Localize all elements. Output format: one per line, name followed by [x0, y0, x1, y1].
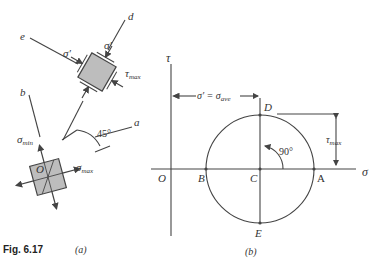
figure-caption: Fig. 6.17: [3, 244, 43, 255]
point-A-label: A: [317, 172, 325, 184]
label-e: e: [20, 30, 25, 42]
part-b-label: (b): [245, 246, 257, 258]
mohr-circle: [151, 64, 356, 236]
angle-45-label: 45°: [97, 128, 111, 139]
part-a-element-diagram: [29, 20, 132, 152]
sigma-prime-left-label: σ′: [63, 47, 71, 59]
axis-b-line: [29, 95, 40, 137]
tau-axis-label: τ: [166, 51, 171, 65]
axis-d-lower-line: [63, 101, 83, 140]
angle-90-label: 90°: [279, 146, 293, 157]
mohr-circle-figure: e d b a 45° O σ′ σ′ τmax σmin σmax: [0, 0, 377, 265]
sigma-prime-top-label: σ′: [104, 39, 112, 51]
tau-max-label-a: τmax: [125, 67, 141, 81]
point-C-label: C: [250, 172, 258, 184]
principal-element: [8, 137, 89, 218]
origin-o-label-a: O: [36, 163, 44, 175]
label-a: a: [134, 116, 140, 128]
sigma-max-label: σmax: [76, 161, 94, 175]
point-D-label: D: [263, 101, 272, 113]
label-d: d: [128, 10, 134, 22]
tau-max-label-b: τmax: [326, 134, 342, 147]
point-E-label: E: [254, 227, 262, 239]
point-B-label: B: [198, 172, 205, 184]
part-a-label: (a): [75, 244, 87, 256]
sigma-ave-dimension-label: σ′ = σave: [197, 90, 231, 103]
sigma-min-label: σmin: [17, 133, 33, 147]
sigma-axis-label: σ: [362, 165, 369, 179]
label-b: b: [20, 86, 26, 98]
origin-o-label-b: O: [158, 172, 166, 184]
